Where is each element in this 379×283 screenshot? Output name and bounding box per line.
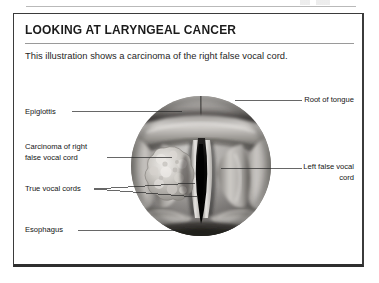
label-true-vocal-cords: True vocal cords <box>25 184 81 195</box>
label-root-of-tongue: Root of tongue <box>245 95 354 106</box>
figure-title: LOOKING AT LARYNGEAL CANCER <box>25 23 236 37</box>
page-top-rule <box>26 6 356 7</box>
label-carcinoma-right-false-vocal-cord: Carcinoma of right false vocal cord <box>25 142 87 163</box>
label-esophagus: Esophagus <box>25 225 63 236</box>
title-divider <box>25 43 354 44</box>
page-header-marks <box>300 0 350 5</box>
label-left-false-vocal-cord: Left false vocal cord <box>245 162 354 183</box>
label-epiglottis: Epiglottis <box>25 107 56 118</box>
figure-subtitle: This illustration shows a carcinoma of t… <box>25 50 288 61</box>
figure-frame: LOOKING AT LARYNGEAL CANCER This illustr… <box>13 13 364 267</box>
